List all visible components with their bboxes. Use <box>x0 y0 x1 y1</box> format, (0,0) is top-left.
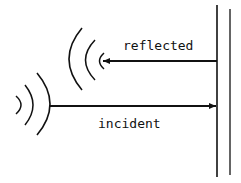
reflected-wavefront-middle <box>86 40 96 80</box>
incident-label: incident <box>98 116 161 131</box>
wave-reflection-diagram: reflected incident <box>0 0 241 183</box>
reflected-wave: reflected <box>69 28 217 90</box>
reflected-wavefront-outer <box>69 28 82 90</box>
incident-wavefront-middle <box>25 85 33 125</box>
reflected-label: reflected <box>123 38 193 53</box>
incident-wavefront-outer <box>37 73 50 135</box>
incident-wavefront-inner <box>16 96 21 114</box>
incident-wave: incident <box>16 73 216 135</box>
wall <box>217 5 230 177</box>
